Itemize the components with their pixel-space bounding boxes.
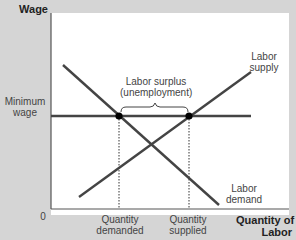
labor-market-chart: Wage Minimum wage 0 Quantity demanded Qu… [0, 0, 296, 240]
minimum-wage-label: Minimum wage [2, 96, 48, 118]
origin-label: 0 [37, 211, 49, 222]
labor-supply-label: Labor supply [244, 51, 284, 73]
surplus-brace [121, 103, 188, 112]
labor-supply-line1: Labor [244, 51, 284, 62]
quantity-supplied-line2: supplied [164, 225, 212, 236]
y-axis-title: Wage [8, 4, 48, 15]
quantity-supplied-point [185, 112, 192, 119]
quantity-supplied-line1: Quantity [164, 214, 212, 225]
quantity-demanded-line2: demanded [96, 225, 144, 236]
quantity-demanded-label: Quantity demanded [96, 214, 144, 236]
labor-surplus-line1: Labor surplus [120, 76, 192, 87]
x-axis-title-line1: Quantity of [236, 214, 292, 226]
quantity-demanded-line1: Quantity [96, 214, 144, 225]
labor-surplus-annotation: Labor surplus (unemployment) [120, 76, 192, 98]
quantity-supplied-label: Quantity supplied [164, 214, 212, 236]
minimum-wage-label-line1: Minimum [2, 96, 48, 107]
x-axis-title-line2: Labor [236, 226, 292, 238]
labor-surplus-line2: (unemployment) [120, 87, 192, 98]
minimum-wage-label-line2: wage [2, 107, 48, 118]
x-axis-title: Quantity of Labor [236, 214, 292, 238]
labor-demand-line1: Labor [224, 183, 264, 194]
labor-demand-label: Labor demand [224, 183, 264, 205]
labor-supply-line2: supply [244, 62, 284, 73]
labor-demand-line2: demand [224, 194, 264, 205]
quantity-demanded-point [115, 112, 122, 119]
